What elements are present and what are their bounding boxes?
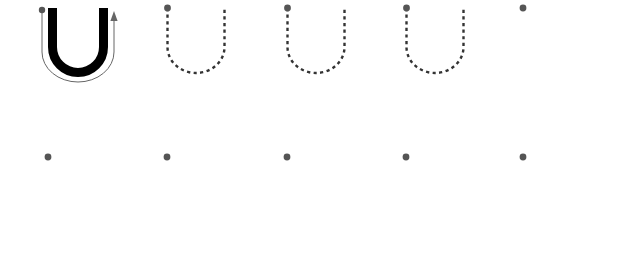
start-dot [45,154,52,161]
start-dot [403,154,410,161]
arrowhead-icon [110,11,117,21]
practice-row-2-rules [30,157,608,252]
solid-letter-u-stroke [53,8,104,73]
start-dot [284,5,291,12]
start-dot [520,5,527,12]
dashed-letter-u-3-stroke [407,8,464,73]
start-dot [164,154,171,161]
dashed-letter-u-2-stroke [288,8,345,73]
practice-row-1-rules [30,8,608,103]
start-dot [284,154,291,161]
start-dot [39,7,45,13]
start-dot [164,5,171,12]
dashed-letter-u-1-stroke [168,8,225,73]
worksheet-svg [0,0,631,261]
worksheet-canvas [0,0,631,261]
start-dot-only-row1 [520,5,527,12]
start-dot [520,154,527,161]
start-dot [403,5,410,12]
solid-letter-u [53,8,104,73]
